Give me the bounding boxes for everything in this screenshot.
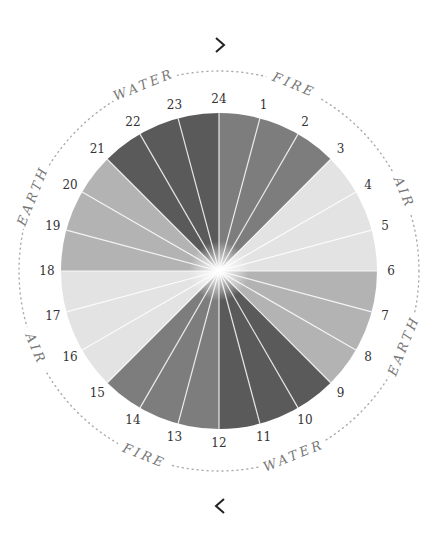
hour-label: 22 [125, 115, 140, 129]
element-hour-wheel: 241234567891011121314151617181920212223W… [0, 0, 442, 537]
element-label-air: AIR [22, 330, 49, 367]
hour-label: 4 [364, 178, 372, 192]
element-label-fire: FIRE [120, 440, 169, 471]
hour-label: 13 [167, 430, 182, 444]
hour-label: 5 [381, 219, 389, 233]
hour-label: 24 [211, 92, 227, 106]
hour-label: 2 [301, 115, 309, 129]
element-label-earth: EARTH [384, 313, 422, 378]
hour-label: 10 [297, 413, 312, 427]
hour-label: 8 [364, 350, 372, 364]
hour-label: 19 [45, 219, 60, 233]
element-label-air: AIR [390, 173, 417, 210]
hour-label: 15 [90, 386, 105, 400]
hour-label: 6 [387, 264, 395, 278]
hour-label: 7 [381, 309, 389, 323]
hour-label: 20 [62, 178, 77, 192]
hour-label: 23 [167, 98, 182, 112]
hour-label: 17 [45, 309, 60, 323]
hour-label: 12 [211, 436, 226, 450]
hour-label: 21 [90, 142, 105, 156]
hour-label: 16 [62, 350, 77, 364]
hour-label: 1 [260, 98, 268, 112]
chevron-left-icon [209, 495, 231, 517]
hour-label: 9 [337, 386, 345, 400]
element-label-fire: FIRE [269, 69, 318, 100]
center-glow [189, 241, 249, 301]
hour-label: 3 [337, 142, 345, 156]
hour-label: 14 [125, 413, 141, 427]
hour-label: 18 [39, 264, 54, 278]
prev-button[interactable] [209, 495, 231, 517]
hour-label: 11 [256, 430, 271, 444]
